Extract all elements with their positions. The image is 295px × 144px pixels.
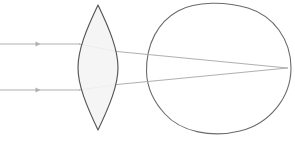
optics-ray-diagram [0, 0, 295, 144]
diagram-canvas [0, 0, 295, 144]
focal-point [287, 67, 288, 68]
